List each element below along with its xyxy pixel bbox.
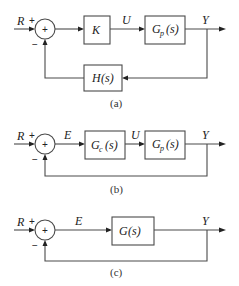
arrow-icon [43,39,48,45]
output-label: Y [202,214,210,228]
feedback-return-line [45,41,84,78]
sum-sign: + [42,24,48,35]
arrow-icon [219,27,226,32]
plus-sign: + [29,15,35,26]
block-gc-sub: c [99,145,103,154]
minus-sign: − [32,39,38,50]
signal-u-label: U [131,128,141,142]
arrow-icon [29,27,35,32]
caption-b: (b) [110,183,123,196]
arrow-icon [43,240,48,246]
input-label: R [16,215,25,229]
block-h-arg: (s) [101,71,114,85]
sum-sign: + [42,139,48,150]
block-gc-arg: (s) [105,138,118,152]
plus-sign: + [29,130,35,141]
diagram-a: R + − + K U G p (s) Y H (s) (a) [14,13,226,110]
diagram-c: R + − + E G (s) Y (c) [14,214,226,279]
diagram-b: R + − + E G c (s) U G p (s) Y (b) [14,128,226,196]
block-gp [145,131,185,159]
arrow-icon [29,142,35,147]
block-gp-sub: p [159,144,164,153]
input-label: R [16,129,25,143]
block-g-arg: (s) [128,224,141,238]
minus-sign: − [32,240,38,251]
arrow-icon [29,228,35,233]
block-k-label: K [91,23,101,37]
output-label: Y [202,13,210,27]
arrow-icon [43,154,48,160]
sum-sign: + [42,225,48,236]
signal-e-label: E [63,128,72,142]
arrow-icon [78,27,84,32]
arrow-icon [219,142,226,147]
arrow-icon [139,142,145,147]
arrow-icon [79,142,85,147]
caption-c: (c) [110,266,123,279]
block-gp-arg: (s) [166,22,179,36]
block-g-main: G [119,224,128,238]
caption-a: (a) [110,97,123,110]
signal-e-label: E [74,214,83,228]
block-gp [145,16,185,44]
arrow-icon [106,228,112,233]
block-diagrams: R + − + K U G p (s) Y H (s) (a) R + − [0,0,239,286]
arrow-icon [219,228,226,233]
plus-sign: + [29,216,35,227]
input-label: R [16,14,25,28]
arrow-icon [122,76,128,81]
block-gp-arg: (s) [166,137,179,151]
output-label: Y [202,128,210,142]
minus-sign: − [32,154,38,165]
signal-u-label: U [122,13,132,27]
block-gp-sub: p [159,29,164,38]
arrow-icon [139,27,145,32]
